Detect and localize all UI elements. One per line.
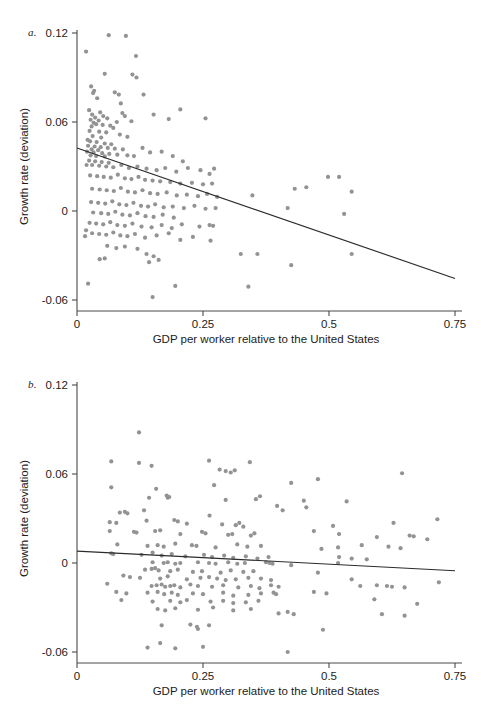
scatter-point	[234, 523, 238, 527]
scatter-point	[289, 263, 293, 267]
scatter-point	[243, 561, 247, 565]
scatter-point	[185, 577, 189, 581]
scatter-point	[281, 508, 285, 512]
scatter-point	[149, 225, 153, 229]
scatter-point	[143, 236, 147, 240]
scatter-point	[214, 562, 218, 566]
scatter-point	[114, 246, 118, 250]
scatter-point	[222, 553, 226, 557]
scatter-point	[342, 212, 346, 216]
scatter-point	[160, 582, 164, 586]
scatter-point	[239, 252, 243, 256]
scatter-point	[168, 599, 172, 603]
scatter-point	[249, 607, 253, 611]
scatter-point	[96, 201, 100, 205]
scatter-point	[152, 215, 156, 219]
scatter-point	[168, 569, 172, 573]
scatter-point	[102, 175, 106, 179]
scatter-point	[156, 607, 160, 611]
scatter-point	[400, 471, 404, 475]
y-tick-label: 0.12	[46, 379, 68, 391]
scatter-point	[178, 532, 182, 536]
scatter-point	[175, 193, 179, 197]
scatter-point	[201, 592, 205, 596]
scatter-point	[176, 593, 180, 597]
scatter-point	[173, 562, 177, 566]
scatter-point	[125, 153, 129, 157]
figure-scatter-growth-vs-gdp: a. -0.0600.060.1200.250.50.75GDP per wor…	[0, 0, 481, 704]
scatter-point	[437, 580, 441, 584]
scatter-point	[101, 114, 105, 118]
scatter-point	[108, 520, 112, 524]
scatter-point	[218, 467, 222, 471]
regression-line	[77, 551, 455, 571]
scatter-point	[289, 481, 293, 485]
scatter-point	[111, 230, 115, 234]
scatter-point	[145, 544, 149, 548]
scatter-point	[210, 585, 214, 589]
scatter-point	[161, 213, 165, 217]
scatter-point	[98, 257, 102, 261]
scatter-point	[126, 190, 130, 194]
scatter-point	[173, 284, 177, 288]
scatter-point	[87, 158, 91, 162]
scatter-point	[337, 175, 341, 179]
scatter-point	[167, 117, 171, 121]
scatter-point	[194, 544, 198, 548]
scatter-point	[134, 75, 138, 79]
scatter-point	[246, 576, 250, 580]
scatter-point	[176, 568, 180, 572]
scatter-point	[125, 135, 129, 139]
scatter-point	[412, 534, 416, 538]
scatter-point	[375, 535, 379, 539]
scatter-point	[135, 247, 139, 251]
scatter-point	[212, 167, 216, 171]
scatter-point	[143, 178, 147, 182]
regression-line	[77, 148, 455, 279]
scatter-point	[425, 537, 429, 541]
scatter-point	[350, 190, 354, 194]
scatter-point	[148, 150, 152, 154]
scatter-point	[176, 519, 180, 523]
scatter-point	[96, 148, 100, 152]
scatter-point	[89, 118, 93, 122]
scatter-point	[132, 154, 136, 158]
scatter-point	[157, 568, 161, 572]
scatter-point	[110, 199, 114, 203]
scatter-point	[191, 591, 195, 595]
scatter-point	[219, 571, 223, 575]
scatter-point	[144, 167, 148, 171]
scatter-point	[97, 118, 101, 122]
scatter-point	[113, 210, 117, 214]
scatter-point	[255, 252, 259, 256]
scatter-point	[133, 232, 137, 236]
scatter-point	[131, 201, 135, 205]
scatter-point	[231, 594, 235, 598]
scatter-point	[113, 90, 117, 94]
scatter-point	[114, 590, 118, 594]
scatter-point	[221, 591, 225, 595]
scatter-point	[90, 124, 94, 128]
y-axis-title: Growth rate (deviation)	[18, 460, 30, 577]
scatter-point	[151, 599, 155, 603]
scatter-point	[331, 524, 335, 528]
scatter-point	[84, 228, 88, 232]
scatter-point	[120, 213, 124, 217]
scatter-point	[211, 224, 215, 228]
scatter-point	[90, 112, 94, 116]
scatter-point	[94, 222, 98, 226]
scatter-point	[196, 608, 200, 612]
scatter-point	[129, 119, 133, 123]
scatter-point	[155, 168, 159, 172]
scatter-point	[93, 144, 97, 148]
x-tick-label: 0.25	[192, 670, 214, 682]
scatter-point	[101, 123, 105, 127]
scatter-point	[144, 519, 148, 523]
scatter-point	[147, 260, 151, 264]
scatter-point	[166, 574, 170, 578]
scatter-point	[198, 576, 202, 580]
scatter-point	[166, 560, 170, 564]
scatter-point	[172, 583, 176, 587]
scatter-point	[221, 583, 225, 587]
scatter-point	[178, 238, 182, 242]
